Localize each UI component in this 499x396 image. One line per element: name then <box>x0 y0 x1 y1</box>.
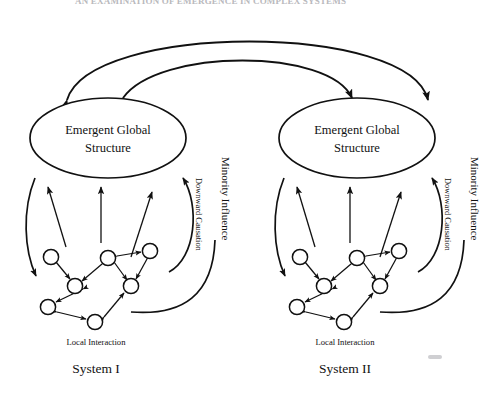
system-1-label: System I <box>72 361 120 376</box>
emergence-diagram: Emergent Global Structure Downward Causa… <box>0 0 499 396</box>
system-2-minority-influence-label: Minority Influence <box>469 157 481 241</box>
system-2: Emergent Global Structure Downward Causa… <box>275 98 481 376</box>
system-2-label: System II <box>319 361 372 376</box>
system-1: Emergent Global Structure Downward Causa… <box>26 98 232 376</box>
figure-page: AN EXAMINATION OF EMERGENCE IN COMPLEX S… <box>0 0 499 396</box>
system-1-local-interaction-label: Local Interaction <box>67 337 127 347</box>
system-1-minority-influence-label: Minority Influence <box>220 157 232 241</box>
system-1-downward-causation-label: Downward Causation <box>194 178 203 252</box>
system-2-downward-causation-label: Downward Causation <box>443 178 452 252</box>
cross-system-arc-inner <box>123 61 352 99</box>
system-2-network <box>289 243 406 329</box>
system-1-ellipse-label-line1: Emergent Global <box>65 123 151 137</box>
system-2-ellipse-label-line2: Structure <box>334 141 380 155</box>
system-2-local-interaction-label: Local Interaction <box>316 337 376 347</box>
system-1-ellipse-label-line2: Structure <box>85 141 131 155</box>
system-1-network <box>40 243 157 329</box>
system-2-ellipse-label-line1: Emergent Global <box>314 123 400 137</box>
cross-system-arc-outer <box>67 42 428 101</box>
scan-artifact <box>428 355 442 359</box>
